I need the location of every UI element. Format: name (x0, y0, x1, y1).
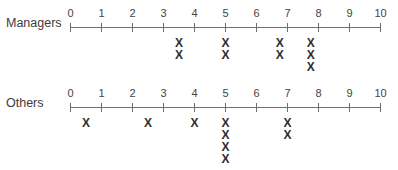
managers-tick-7 (287, 23, 288, 32)
others-tick-2 (132, 103, 133, 112)
others-tick-10 (380, 103, 381, 112)
others-tick-7 (287, 103, 288, 112)
others-tick-label-10: 10 (374, 87, 386, 99)
others-data-mark: X (221, 153, 229, 165)
managers-data-mark: X (221, 49, 229, 61)
others-data-mark: X (82, 117, 90, 129)
managers-tick-6 (256, 23, 257, 32)
others-tick-label-7: 7 (284, 87, 290, 99)
others-tick-label-9: 9 (346, 87, 352, 99)
managers-tick-label-7: 7 (284, 7, 290, 19)
managers-tick-8 (318, 23, 319, 32)
managers-data-mark: X (307, 61, 315, 73)
others-tick-label-1: 1 (98, 87, 104, 99)
managers-tick-label-5: 5 (222, 7, 228, 19)
others-row-label: Others (6, 96, 44, 110)
managers-tick-label-4: 4 (191, 7, 197, 19)
managers-tick-4 (194, 23, 195, 32)
managers-tick-5 (225, 23, 226, 32)
others-tick-3 (163, 103, 164, 112)
managers-data-mark: X (175, 49, 183, 61)
managers-tick-label-2: 2 (129, 7, 135, 19)
managers-tick-label-6: 6 (253, 7, 259, 19)
managers-tick-label-0: 0 (67, 7, 73, 19)
others-tick-label-6: 6 (253, 87, 259, 99)
managers-row-label: Managers (6, 16, 62, 30)
others-tick-label-4: 4 (191, 87, 197, 99)
managers-tick-2 (132, 23, 133, 32)
managers-tick-10 (380, 23, 381, 32)
others-tick-8 (318, 103, 319, 112)
others-data-mark: X (144, 117, 152, 129)
managers-tick-9 (349, 23, 350, 32)
others-tick-0 (70, 103, 71, 112)
managers-tick-0 (70, 23, 71, 32)
others-tick-label-3: 3 (160, 87, 166, 99)
others-data-mark: X (190, 117, 198, 129)
others-tick-label-8: 8 (315, 87, 321, 99)
others-tick-5 (225, 103, 226, 112)
others-tick-label-5: 5 (222, 87, 228, 99)
others-tick-6 (256, 103, 257, 112)
managers-tick-label-1: 1 (98, 7, 104, 19)
dot-plot-figure: Managers012345678910XXXXXXXXXOthers01234… (0, 0, 398, 170)
managers-tick-3 (163, 23, 164, 32)
others-tick-label-2: 2 (129, 87, 135, 99)
managers-tick-label-9: 9 (346, 7, 352, 19)
managers-tick-1 (101, 23, 102, 32)
others-tick-1 (101, 103, 102, 112)
others-tick-9 (349, 103, 350, 112)
managers-tick-label-10: 10 (374, 7, 386, 19)
managers-data-mark: X (276, 49, 284, 61)
others-tick-4 (194, 103, 195, 112)
managers-tick-label-3: 3 (160, 7, 166, 19)
others-data-mark: X (283, 129, 291, 141)
others-tick-label-0: 0 (67, 87, 73, 99)
managers-tick-label-8: 8 (315, 7, 321, 19)
